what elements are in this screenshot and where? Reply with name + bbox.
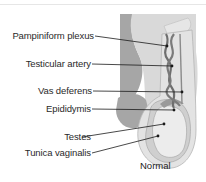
label-tunica-vaginalis: Tunica vaginalis xyxy=(25,147,91,158)
diagram-caption: Normal xyxy=(140,160,171,171)
anatomy-diagram: Pampiniform plexus Testicular artery Vas… xyxy=(0,0,206,182)
label-pampiniform-plexus: Pampiniform plexus xyxy=(12,30,94,41)
label-testicular-artery: Testicular artery xyxy=(26,58,91,69)
label-testes: Testes xyxy=(64,131,91,142)
label-vas-deferens: Vas deferens xyxy=(38,85,92,96)
label-epididymis: Epididymis xyxy=(46,103,91,114)
